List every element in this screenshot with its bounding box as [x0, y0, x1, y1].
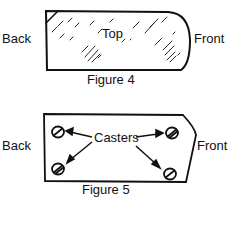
figure4-back-label: Back — [2, 32, 31, 46]
figure5-back-label: Back — [2, 139, 31, 153]
figure5-casters-label: Casters — [94, 131, 139, 145]
caster-icon — [166, 128, 178, 139]
caster-icon — [52, 164, 64, 175]
figure5-front-label: Front — [197, 139, 227, 153]
figure4-top-label: Top — [102, 27, 123, 41]
figure4-caption: Figure 4 — [87, 73, 135, 87]
figure5-caption: Figure 5 — [82, 183, 130, 197]
caster-icon — [52, 127, 64, 138]
figure4-front-label: Front — [194, 32, 224, 46]
caster-icon — [164, 169, 176, 180]
